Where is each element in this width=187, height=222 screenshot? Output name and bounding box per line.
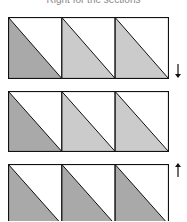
half-square-triangle-block	[115, 18, 168, 79]
half-square-triangle-block	[9, 18, 62, 79]
quilt-row-2	[8, 91, 168, 152]
half-square-triangle-block	[62, 18, 115, 79]
figure-caption: Right for the sections	[0, 0, 187, 5]
arrow-down-icon	[172, 64, 184, 79]
quilt-row-3	[8, 164, 168, 221]
half-square-triangle-block	[115, 165, 168, 222]
half-square-triangle-block	[9, 92, 62, 152]
half-square-triangle-block	[115, 92, 168, 152]
half-square-triangle-block	[62, 92, 115, 152]
half-square-triangle-block	[9, 165, 62, 222]
arrow-up-icon	[172, 162, 184, 177]
half-square-triangle-block	[62, 165, 115, 222]
quilt-row-1	[8, 17, 168, 79]
